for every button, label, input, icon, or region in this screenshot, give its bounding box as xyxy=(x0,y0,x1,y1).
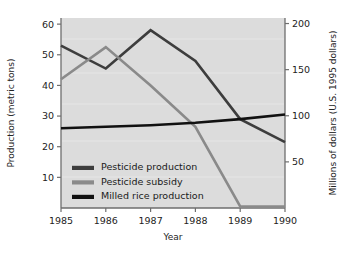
line-chart: 102030405060 50100150200 198519861987198… xyxy=(0,0,349,259)
y-left-tick-label: 30 xyxy=(42,110,54,121)
y-left-axis-title: Production (metric tons) xyxy=(6,58,16,167)
y-left-tick-label: 50 xyxy=(42,49,54,60)
x-tick-label: 1987 xyxy=(139,215,163,226)
y-left-tick-label: 10 xyxy=(42,172,54,183)
x-tick-label: 1986 xyxy=(94,215,118,226)
x-tick-label: 1985 xyxy=(49,215,73,226)
y-right-tick-label: 50 xyxy=(292,156,304,167)
x-tick-label: 1990 xyxy=(273,215,297,226)
x-tick-label: 1989 xyxy=(228,215,252,226)
y-right-ticks: 50100150200 xyxy=(285,18,310,167)
x-tick-label: 1988 xyxy=(183,215,207,226)
y-right-tick-label: 200 xyxy=(292,18,310,29)
y-right-tick-label: 100 xyxy=(292,110,310,121)
y-left-ticks: 102030405060 xyxy=(42,19,61,183)
legend-label: Pesticide subsidy xyxy=(101,176,183,187)
legend-swatch xyxy=(72,166,94,170)
plot-band xyxy=(62,72,284,74)
legend-swatch xyxy=(72,195,94,199)
plot-band xyxy=(62,38,284,40)
plot-band xyxy=(62,140,284,142)
y-left-tick-label: 60 xyxy=(42,19,54,30)
legend-label: Pesticide production xyxy=(101,161,197,172)
y-left-tick-label: 20 xyxy=(42,141,54,152)
x-axis-title: Year xyxy=(162,232,182,242)
legend-label: Milled rice production xyxy=(101,190,204,201)
legend-swatch xyxy=(72,180,94,184)
chart-figure: 102030405060 50100150200 198519861987198… xyxy=(0,0,349,259)
y-right-axis-title: Millions of dollars (U.S. 1995 dollars) xyxy=(328,31,338,196)
x-ticks: 198519861987198819891990 xyxy=(49,208,297,226)
y-right-tick-label: 150 xyxy=(292,64,310,75)
y-left-tick-label: 40 xyxy=(42,80,54,91)
